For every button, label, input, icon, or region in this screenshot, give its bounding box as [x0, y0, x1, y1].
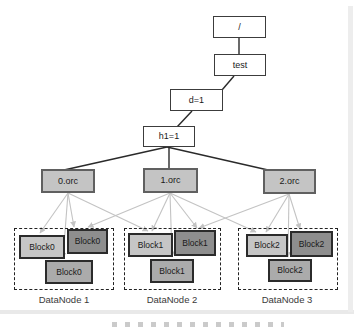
file-0orc-label: 0.orc — [58, 177, 78, 186]
block-label: Block1 — [138, 241, 164, 250]
file-node-2orc: 2.orc — [263, 169, 316, 194]
datanode-3-label: DataNode 3 — [262, 294, 313, 305]
block-dn2-replica1: Block1 — [128, 233, 173, 257]
file-2orc-label: 2.orc — [279, 177, 299, 186]
fs-node-partition-d1: d=1 — [170, 89, 223, 111]
page-edge-band — [0, 310, 354, 314]
block-dn2-replica3: Block1 — [150, 259, 194, 283]
fs-node-h1-label: h1=1 — [159, 132, 179, 141]
block-label: Block1 — [182, 239, 208, 248]
fs-node-d1-label: d=1 — [189, 96, 204, 105]
fs-node-test: test — [214, 54, 266, 76]
page-edge-strip — [348, 6, 353, 312]
block-label: Block0 — [29, 243, 55, 252]
block-label: Block0 — [75, 237, 101, 246]
block-label: Block2 — [299, 240, 325, 249]
datanode-2-label: DataNode 2 — [147, 294, 198, 305]
block-label: Block2 — [254, 241, 280, 250]
block-dn2-replica2: Block1 — [174, 230, 216, 256]
fs-node-partition-h1: h1=1 — [143, 126, 195, 147]
fs-node-root: / — [213, 16, 266, 38]
block-dn3-replica1: Block2 — [246, 234, 288, 257]
file-node-0orc: 0.orc — [41, 169, 95, 193]
diagram-canvas: / test d=1 h1=1 0.orc 1.orc 2.orc Block0… — [0, 0, 363, 331]
file-1orc-label: 1.orc — [160, 176, 180, 185]
block-label: Block1 — [159, 267, 185, 276]
block-dn1-replica3: Block0 — [45, 260, 93, 284]
block-label: Block0 — [56, 268, 82, 277]
block-label: Block2 — [277, 266, 303, 275]
fs-node-test-label: test — [233, 61, 248, 70]
block-dn3-replica3: Block2 — [268, 259, 312, 282]
block-dn1-replica1: Block0 — [19, 235, 65, 259]
file-node-1orc: 1.orc — [143, 168, 198, 193]
fs-node-root-label: / — [238, 23, 241, 32]
block-dn3-replica2: Block2 — [290, 231, 333, 257]
block-dn1-replica2: Block0 — [67, 229, 108, 254]
datanode-1-label: DataNode 1 — [39, 294, 90, 305]
clipped-caption-fragment — [112, 322, 284, 327]
